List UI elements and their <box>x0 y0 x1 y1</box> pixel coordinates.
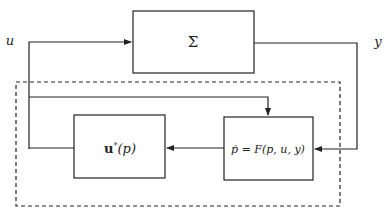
estimator-label: ṗ = F(p, u, y) <box>231 143 305 156</box>
controller-label: u*(p) <box>104 141 136 156</box>
connection-u-to-estimator <box>29 97 268 115</box>
input-signal-label: u <box>6 33 14 48</box>
controller-label-u: u <box>104 141 113 156</box>
controller-label-arg: (p) <box>117 141 135 156</box>
block-diagram: Σ u*(p) ṗ = F(p, u, y) u y <box>0 0 389 216</box>
plant-label: Σ <box>188 33 199 51</box>
output-signal-label: y <box>373 34 382 49</box>
